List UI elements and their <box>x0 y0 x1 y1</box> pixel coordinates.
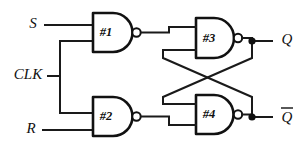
wire-gate2-to-gate4 <box>141 117 196 126</box>
wire-gate4-output-to-qbar <box>242 115 272 118</box>
input-label-r: R <box>25 120 35 136</box>
gate-2-label: #2 <box>99 109 113 123</box>
input-label-s: S <box>29 15 37 31</box>
gate-1-label: #1 <box>99 25 113 39</box>
wire-gate1-to-gate3 <box>141 27 196 33</box>
junction-q-node <box>248 37 255 44</box>
output-label-qbar: Q <box>282 109 293 125</box>
gate-4-label: #4 <box>202 107 216 121</box>
circuit-diagram-canvas: #1 #2 #3 #4 <box>0 0 308 150</box>
gate-nand-3[interactable]: #3 <box>196 18 242 58</box>
input-label-clk: CLK <box>14 66 43 82</box>
junction-qbar-node <box>248 113 255 120</box>
gate-4-inversion-bubble <box>234 110 242 118</box>
input-wires <box>43 25 93 130</box>
wire-gate3-output-to-q <box>242 38 272 41</box>
gate-3-label: #3 <box>202 31 216 45</box>
gate-1-inversion-bubble <box>132 28 140 36</box>
gate-2-inversion-bubble <box>132 112 140 120</box>
logic-circuit-svg: #1 #2 #3 #4 <box>0 0 308 150</box>
output-label-q: Q <box>282 31 293 47</box>
gate-3-inversion-bubble <box>234 34 242 42</box>
gate-nand-1[interactable]: #1 <box>93 13 141 52</box>
gate-nand-4[interactable]: #4 <box>196 95 242 134</box>
gate-nand-2[interactable]: #2 <box>93 97 141 136</box>
